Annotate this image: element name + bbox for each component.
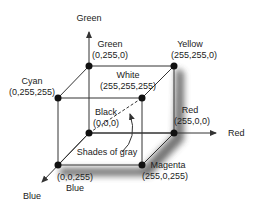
vertex-yellow bbox=[171, 63, 178, 70]
vertex-magenta bbox=[139, 162, 146, 169]
label-black-name: Black bbox=[95, 107, 118, 117]
vertex-green bbox=[86, 63, 93, 70]
vertex-cyan bbox=[55, 95, 62, 102]
label-green-rgb: (0,255,0) bbox=[92, 50, 128, 60]
label-black-rgb: (0,0,0) bbox=[93, 118, 119, 128]
label-red-name: Red bbox=[182, 105, 199, 115]
label-cyan-name: Cyan bbox=[21, 76, 42, 86]
label-white-name: White bbox=[116, 70, 139, 80]
label-red-rgb: (255,0,0) bbox=[174, 116, 210, 126]
label-magenta-rgb: (255,0,255) bbox=[142, 171, 188, 181]
vertex-white bbox=[139, 95, 146, 102]
vertex-blue bbox=[55, 162, 62, 169]
label-blue-rgb: (0,0,255) bbox=[57, 172, 93, 182]
label-green-name: Green bbox=[97, 39, 122, 49]
label-shades-of-gray: Shades of gray bbox=[77, 147, 138, 157]
label-blue-name: Blue bbox=[66, 183, 84, 193]
axis-label-blue: Blue bbox=[23, 191, 41, 201]
vertex-black bbox=[86, 130, 93, 137]
label-white-rgb: (255,255,255) bbox=[100, 81, 156, 91]
vertex-red bbox=[171, 130, 178, 137]
label-yellow-name: Yellow bbox=[177, 39, 203, 49]
axis-label-green: Green bbox=[76, 13, 101, 23]
axis-label-red: Red bbox=[228, 128, 245, 138]
label-yellow-rgb: (255,255,0) bbox=[171, 50, 217, 60]
label-cyan-rgb: (0,255,255) bbox=[9, 87, 55, 97]
label-magenta-name: Magenta bbox=[150, 160, 185, 170]
rgb-cube-diagram: Green Red Blue Green (0,255,0) Yellow (2… bbox=[0, 0, 256, 210]
